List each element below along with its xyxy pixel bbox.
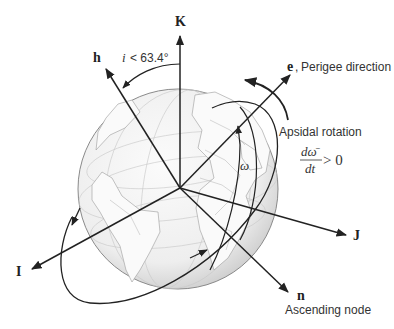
label-perigee-direction: Perigee direction — [301, 60, 391, 74]
label-I: I — [16, 264, 21, 279]
orbit-direction-arrow-left — [72, 208, 80, 225]
label-n: n — [297, 288, 305, 303]
inclination-arc — [123, 64, 180, 88]
label-omega: ω — [240, 158, 249, 173]
label-apsidal-rotation: Apsidal rotation — [279, 125, 362, 139]
label-inclination-cond: < 63.4° — [130, 51, 169, 65]
label-perigee-sep: , — [295, 60, 298, 74]
label-J: J — [353, 228, 360, 243]
label-ascending-node: Ascending node — [285, 303, 371, 317]
label-h: h — [93, 50, 101, 65]
orbit-diagram: K h i < 63.4° e , Perigee direction Apsi… — [0, 0, 394, 329]
label-e: e — [287, 59, 293, 74]
label-K: K — [175, 14, 186, 29]
label-derivative-numerator: dω̄ — [301, 144, 321, 159]
label-derivative-condition: > 0 — [323, 152, 343, 168]
label-derivative-denominator: dt — [305, 161, 316, 176]
label-inclination-var: i — [122, 50, 126, 65]
